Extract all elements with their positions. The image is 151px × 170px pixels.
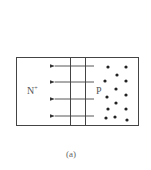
n-plus-label: N+ xyxy=(27,85,38,96)
p-label: P xyxy=(96,85,102,96)
electric-field-arrows xyxy=(55,66,94,116)
figure-caption: (a) xyxy=(66,149,76,159)
p-region-dots xyxy=(103,65,128,121)
pn-junction-diagram xyxy=(0,0,151,170)
